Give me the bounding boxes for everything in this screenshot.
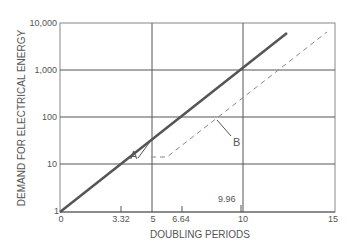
svg-text:100: 100 [42,112,57,122]
label-b-leader [217,120,231,136]
svg-text:10: 10 [238,214,248,224]
label-a: A [130,149,138,161]
svg-text:15: 15 [328,214,338,224]
svg-text:5: 5 [150,214,155,224]
svg-text:3.32: 3.32 [112,214,130,224]
label-b: B [233,136,240,148]
chart: A B 9.96 10,000 1,000 100 10 1 0 3.32 5 … [0,0,348,247]
x-minor-ticks [121,205,241,212]
y-tick-labels: 10,000 1,000 100 10 1 [29,18,59,216]
series-a-line [60,33,287,212]
x-tick-labels: 0 3.32 5 6.64 10 15 [58,214,338,224]
svg-text:6.64: 6.64 [172,214,190,224]
y-axis-title: DEMAND FOR ELECTRICAL ENERGY [16,30,27,207]
svg-text:10: 10 [47,159,57,169]
svg-text:1,000: 1,000 [34,65,57,75]
note-996: 9.96 [218,194,236,204]
h-gridlines [60,70,335,164]
x-axis-title: DOUBLING PERIODS [150,229,250,240]
svg-text:10,000: 10,000 [29,18,57,28]
svg-text:0: 0 [58,214,63,224]
